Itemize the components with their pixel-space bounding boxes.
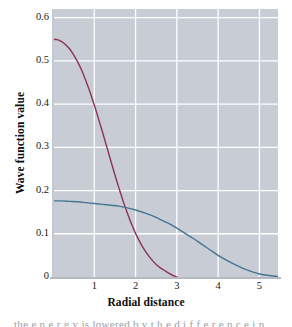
y-tick-label: 0 (0, 270, 49, 281)
series-line-1 (53, 201, 278, 277)
x-tick-label: 2 (126, 280, 146, 291)
figure-container: 00.10.20.30.40.50.6 12345 Wave function … (0, 0, 292, 327)
y-axis-title: Wave function value (14, 92, 26, 194)
x-axis-title: Radial distance (0, 296, 292, 308)
caption-fragment: the e n e r g y is lowered b y t h e d i… (0, 318, 292, 327)
y-axis-title-holder: Wave function value (10, 28, 28, 258)
data-curves (53, 39, 278, 277)
x-tick-label: 4 (208, 280, 228, 291)
x-tick-label: 5 (249, 280, 269, 291)
y-axis-line (52, 9, 54, 278)
x-axis-line (50, 277, 281, 279)
x-tick-label: 3 (167, 280, 187, 291)
plot-area (53, 9, 278, 277)
x-tick-label: 1 (84, 280, 104, 291)
gridlines (53, 9, 278, 277)
series-line-0 (53, 39, 177, 277)
y-tick-label: 0.6 (0, 11, 49, 22)
plot-svg (53, 9, 278, 277)
